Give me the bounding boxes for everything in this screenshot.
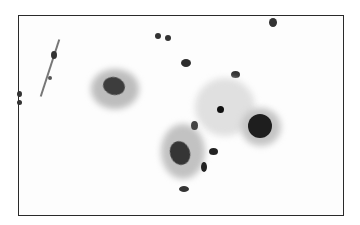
small-cell [155, 33, 161, 39]
small-cell [191, 121, 198, 130]
small-nucleus [217, 106, 224, 113]
small-cell [201, 162, 207, 172]
small-cell [165, 35, 171, 41]
small-cell [209, 148, 218, 155]
small-cell [17, 100, 22, 105]
small-cell [48, 76, 52, 80]
small-cell [269, 18, 277, 27]
fiber-strand [40, 39, 60, 97]
small-cell [51, 51, 57, 59]
micrograph-frame [18, 15, 344, 216]
small-cell [181, 59, 191, 67]
dark-cell-nucleus [248, 114, 272, 138]
small-cell [17, 91, 22, 97]
small-cell [179, 186, 189, 192]
small-cell [231, 71, 240, 78]
